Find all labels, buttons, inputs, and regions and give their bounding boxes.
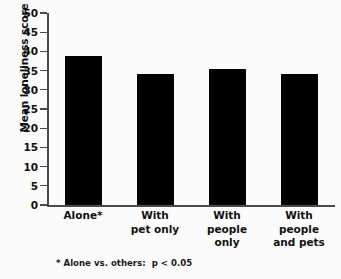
- x-axis-category-labels: Alone*Withpet onlyWithpeopleonlyWithpeop…: [47, 209, 335, 265]
- x-axis-category-label-line: only: [191, 236, 263, 250]
- y-axis-tick-label: 15: [4, 141, 38, 153]
- significance-footnote: * Alone vs. others: p < 0.05: [56, 258, 192, 268]
- x-axis-category-label-line: people: [191, 223, 263, 237]
- y-axis-tick: [40, 12, 47, 13]
- y-axis-tick-label: 20: [4, 122, 38, 134]
- x-axis-category-label-line: and pets: [263, 236, 335, 250]
- y-axis-tick: [40, 185, 47, 186]
- y-axis-tick-label: 35: [4, 65, 38, 77]
- y-axis-tick-label: 45: [4, 26, 38, 38]
- x-axis-category-label-line: pet only: [119, 223, 191, 237]
- bar: [65, 56, 102, 205]
- y-axis-tick: [40, 204, 47, 205]
- y-axis-tick-label: 25: [4, 103, 38, 115]
- x-axis-category-label-line: With: [191, 209, 263, 223]
- bar: [137, 74, 174, 205]
- y-axis-tick-label: 5: [4, 180, 38, 192]
- x-axis-category-label-line: With: [263, 209, 335, 223]
- y-axis-tick: [40, 108, 47, 109]
- x-axis-category-label-line: With: [119, 209, 191, 223]
- loneliness-bar-chart: Mean loneliness score 504540353025201510…: [0, 0, 341, 279]
- bar: [281, 74, 318, 205]
- x-axis-line: [47, 205, 335, 207]
- y-axis-tick-label: 40: [4, 45, 38, 57]
- bar: [209, 69, 246, 205]
- x-axis-category-label: Withpet only: [119, 209, 191, 236]
- x-axis-category-label: Withpeopleonly: [191, 209, 263, 250]
- bars-layer: [47, 13, 335, 205]
- y-axis-tick-label: 10: [4, 161, 38, 173]
- y-axis-tick: [40, 32, 47, 33]
- y-axis-tick-label: 50: [4, 7, 38, 19]
- y-axis-tick-label: 0: [4, 199, 38, 211]
- x-axis-category-label: Withpeopleand pets: [263, 209, 335, 250]
- y-axis-tick: [40, 51, 47, 52]
- x-axis-category-label-line: Alone*: [47, 209, 119, 223]
- y-axis-tick: [40, 70, 47, 71]
- y-axis-tick-label: 30: [4, 84, 38, 96]
- y-axis-tick: [40, 147, 47, 148]
- y-axis-tick: [40, 166, 47, 167]
- y-axis-tick: [40, 89, 47, 90]
- x-axis-category-label: Alone*: [47, 209, 119, 223]
- y-axis-tick: [40, 128, 47, 129]
- x-axis-category-label-line: people: [263, 223, 335, 237]
- y-axis-tick-labels: 50454035302520151050: [0, 0, 38, 279]
